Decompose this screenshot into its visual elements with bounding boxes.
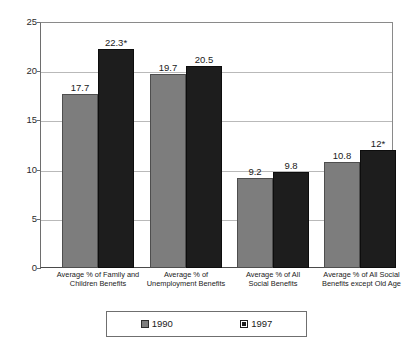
x-axis-labels: Average % of Family and Children Benefit… — [41, 270, 392, 296]
bar-1990-all-social[interactable]: 9.2 — [237, 178, 273, 269]
x-axis-label-except-old-age: Average % of All Social Benefits except … — [295, 270, 409, 289]
legend-entry-1997[interactable]: 1997 — [240, 319, 272, 329]
bar-value-label: 17.7 — [71, 82, 90, 93]
bar-value-label: 19.7 — [159, 62, 178, 73]
legend-label-1990: 1990 — [152, 319, 173, 329]
bar-value-label: 22.3* — [105, 37, 127, 48]
bar-1990-family-children[interactable]: 17.7 — [62, 94, 98, 268]
bar-value-label: 9.2 — [248, 166, 261, 177]
bar-1990-unemployment[interactable]: 19.7 — [150, 74, 186, 268]
y-tick-label: 0 — [3, 263, 37, 273]
bar-value-label: 20.5 — [195, 54, 214, 65]
x-axis-label-line: Benefits except Old Age — [295, 279, 409, 288]
legend: 1990 1997 — [106, 311, 307, 337]
y-axis: 25 20 15 10 5 0 — [0, 22, 37, 269]
legend-entry-1990[interactable]: 1990 — [141, 319, 173, 329]
bars-layer: 17.7 22.3* 19.7 20.5 9.2 9.8 10.8 12* — [41, 22, 392, 268]
bar-chart: 25 20 15 10 5 0 17.7 — [0, 0, 409, 350]
bar-1990-except-old-age[interactable]: 10.8 — [324, 162, 360, 268]
bar-value-label: 12* — [371, 138, 385, 149]
legend-entries: 1990 1997 — [107, 312, 306, 336]
x-axis-label-line: Average % of All Social — [295, 270, 409, 279]
bar-value-label: 9.8 — [284, 160, 297, 171]
black-square-swatch-icon — [240, 320, 248, 328]
bar-1997-except-old-age[interactable]: 12* — [360, 150, 396, 268]
bar-1997-unemployment[interactable]: 20.5 — [186, 66, 222, 268]
bar-1997-all-social[interactable]: 9.8 — [273, 172, 309, 268]
bar-value-label: 10.8 — [333, 150, 352, 161]
legend-label-1997: 1997 — [251, 319, 272, 329]
bar-1997-family-children[interactable]: 22.3* — [98, 49, 134, 268]
gray-square-swatch-icon — [141, 320, 149, 328]
y-tick-label: 10 — [3, 165, 37, 175]
y-tick-label: 15 — [3, 115, 37, 125]
y-tick-label: 25 — [3, 17, 37, 27]
y-tick-label: 5 — [3, 214, 37, 224]
y-tick-mark — [37, 268, 41, 269]
y-tick-label: 20 — [3, 66, 37, 76]
